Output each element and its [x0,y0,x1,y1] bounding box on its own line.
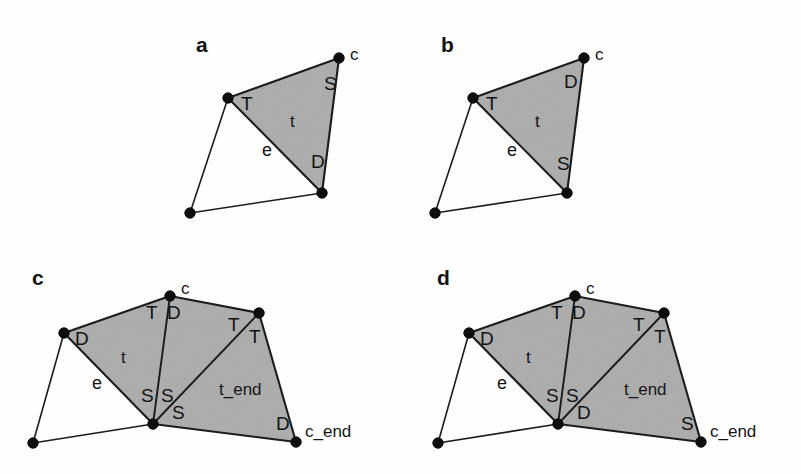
panel-a: cTSteDa [185,33,359,218]
panel-b-node-bottom-left [430,208,440,218]
figure-canvas: cTSteDacTDteSbcTDTTDteSSSt_endDc_endccTD… [0,0,802,474]
panel-d-node-center-bottom [553,419,563,429]
panel-c-half-edge-label-D3: D [276,413,290,434]
panel-b-node-top-right [579,53,589,63]
panel-d-half-edge-label-D2: D [480,328,494,349]
panel-a-vertex-label-c: c [350,45,359,64]
panel-d-node-bottom-left [433,438,443,448]
panel-c-half-edge-label-T3: T [249,326,261,347]
panels-group: cTSteDacTDteSbcTDTTDteSSSt_endDc_endccTD… [28,33,757,448]
panel-d-node-c-end [696,437,706,447]
figure-root: cTSteDacTDteSbcTDTTDteSSSt_endDc_endccTD… [0,0,802,474]
panel-c-half-edge-label-S3: S [172,402,185,423]
panel-letter-b: b [441,33,454,56]
panel-b-vertex-label-c: c [595,45,604,64]
panel-a-node-bottom-right [317,188,327,198]
panel-c-half-edge-label-D1: D [167,302,181,323]
panel-c-vertex-label-c: c [181,279,190,298]
panel-d-half-edge-label-S3: S [681,413,694,434]
panel-d-face-label-t-end: t_end [624,380,667,399]
panel-c: cTDTTDteSSSt_endDc_endc [28,266,352,448]
panel-c-node-center-bottom [148,419,158,429]
panel-d-face-label-t: t [526,348,531,367]
panel-letter-c: c [32,266,44,289]
panel-c-node-c-end [291,437,301,447]
panel-a-node-top-right [334,53,344,63]
panel-a-shaded-region [228,58,339,193]
panel-a-half-edge-label-T: T [241,93,253,114]
panel-c-vertex-label-c-end: c_end [305,422,351,441]
panel-b-edge-label-e: e [507,140,517,160]
panel-d-edge-label-e: e [497,373,507,393]
panel-b-half-edge-label-T: T [486,93,498,114]
panel-b-face-label-t: t [535,112,540,131]
panel-d-half-edge-label-S1: S [546,385,559,406]
panel-b-half-edge-label-S: S [557,153,570,174]
panel-c-half-edge-label-T1: T [146,302,158,323]
panel-c-node-c [165,291,175,301]
panel-b-half-edge-label-D: D [564,71,578,92]
panel-b: cTDteSb [430,33,604,218]
panel-c-node-left [59,328,69,338]
panel-d-half-edge-label-T2: T [633,314,645,335]
panel-letter-a: a [196,33,208,56]
panel-a-half-edge-label-S: S [324,73,337,94]
panel-b-node-left [468,93,478,103]
panel-a-half-edge-label-D: D [311,151,325,172]
panel-a-node-left [223,93,233,103]
panel-a-node-bottom-left [185,208,195,218]
panel-c-face-label-t-end: t_end [219,380,262,399]
panel-d-node-top-right [659,308,669,318]
panel-d-half-edge-label-T1: T [551,302,563,323]
panel-d-half-edge-label-D3: D [577,402,591,423]
panel-c-edge-label-e: e [92,373,102,393]
panel-letter-d: d [437,266,450,289]
panel-d-node-left [464,328,474,338]
panel-c-half-edge-label-S1: S [141,385,154,406]
panel-c-face-label-t: t [121,348,126,367]
panel-d-vertex-label-c-end: c_end [710,422,756,441]
panel-d-node-c [570,291,580,301]
panel-d-half-edge-label-T3: T [654,326,666,347]
panel-c-node-bottom-left [28,438,38,448]
panel-c-half-edge-label-T2: T [228,314,240,335]
panel-b-node-bottom-right [562,188,572,198]
panel-d-half-edge-label-D1: D [572,302,586,323]
panel-c-node-top-right [254,308,264,318]
panel-a-edge-label-e: e [262,140,272,160]
panel-c-half-edge-label-D2: D [75,328,89,349]
panel-d: cTDTTDteSSDt_endSc_endd [433,266,757,448]
panel-d-vertex-label-c: c [586,279,595,298]
panel-a-face-label-t: t [290,112,295,131]
